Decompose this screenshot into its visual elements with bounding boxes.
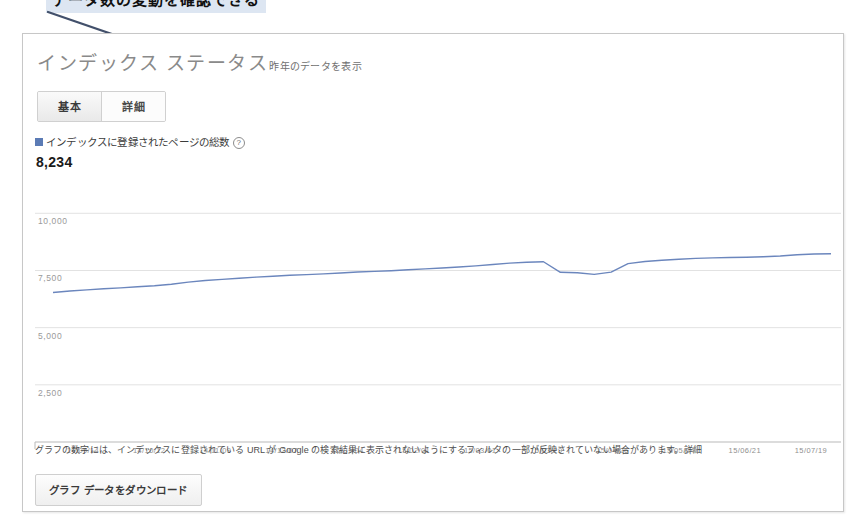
chart-plot-area[interactable]: 2,5005,0007,50010,000 14/09/1414/10/1214… [23, 199, 843, 449]
page-title: インデックス ステータス [37, 53, 268, 74]
help-icon[interactable]: ? [233, 137, 245, 149]
y-axis-tick-label: 5,000 [38, 331, 62, 341]
download-chart-data-button[interactable]: グラフ データをダウンロード [35, 474, 202, 506]
chart-legend: インデックスに登録されたページの総数? 8,234 [35, 136, 295, 170]
y-axis-tick-label: 10,000 [38, 216, 68, 226]
chart-gridlines [35, 213, 841, 385]
chart-footer-note: グラフの数字には、インデックスに登録されている URL が Google の検索… [35, 443, 702, 456]
y-axis-tick-labels: 2,5005,0007,50010,000 [38, 216, 68, 398]
legend-item-label: インデックスに登録されたページの総数 [46, 136, 230, 148]
legend-color-swatch [35, 138, 43, 146]
legend-total-value: 8,234 [36, 154, 295, 170]
index-status-card: インデックス ステータス昨年のデータを表示 基本 詳細 インデックスに登録された… [22, 33, 844, 512]
y-axis-tick-label: 2,500 [38, 388, 62, 398]
x-axis-tick-label: 15/07/19 [795, 446, 827, 455]
y-axis-tick-label: 7,500 [38, 273, 62, 283]
tab-detailed[interactable]: 詳細 [102, 92, 165, 121]
annotation-callout-text: データ数の変動を確認できる [46, 0, 266, 13]
title-subnote: 昨年のデータを表示 [269, 61, 362, 72]
tab-bar: 基本 詳細 [37, 91, 166, 122]
chart-data-line [53, 254, 831, 293]
legend-label-wrap: インデックスに登録されたページの総数? [46, 136, 245, 149]
x-axis-tick-label: 15/06/21 [729, 446, 761, 455]
footer-note-more-link[interactable]: 詳細 [684, 445, 702, 455]
card-title-row: インデックス ステータス昨年のデータを表示 [37, 48, 362, 75]
index-status-line-chart[interactable]: 2,5005,0007,50010,000 14/09/1414/10/1214… [23, 199, 843, 461]
footer-note-text: グラフの数字には、インデックスに登録されている URL が Google の検索… [35, 445, 684, 455]
tab-basic[interactable]: 基本 [38, 92, 102, 121]
